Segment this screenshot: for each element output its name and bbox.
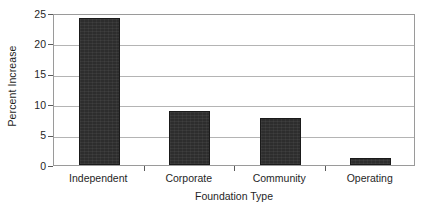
x-category-label-independent: Independent	[53, 173, 144, 185]
bar	[169, 111, 210, 165]
x-tick-mark	[144, 166, 145, 171]
y-axis-title: Percent Increase	[0, 0, 24, 172]
x-category-label-corporate: Corporate	[144, 173, 235, 185]
x-tick-mark	[325, 166, 326, 171]
x-tick-mark	[234, 166, 235, 171]
plot-area	[53, 14, 415, 166]
bar-chart-figure: Percent Increase 0510152025 IndependentC…	[0, 0, 428, 212]
bar	[260, 118, 301, 165]
bar	[350, 158, 391, 165]
bars-group	[54, 15, 414, 165]
x-axis-title: Foundation Type	[53, 190, 415, 202]
bar	[79, 18, 120, 165]
x-category-label-operating: Operating	[325, 173, 416, 185]
x-category-label-community: Community	[234, 173, 325, 185]
y-tick-mark	[48, 166, 53, 167]
y-axis-title-text: Percent Increase	[6, 46, 18, 127]
